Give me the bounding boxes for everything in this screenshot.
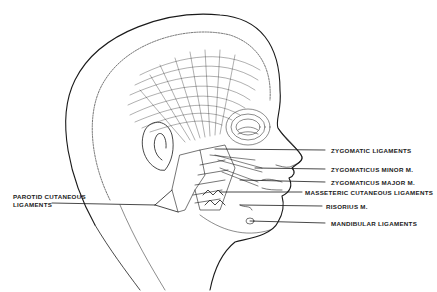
leader-zygomaticus-major [240, 180, 325, 182]
mouth-chin [200, 179, 282, 233]
head-illustration [0, 0, 437, 292]
label-zygomatic-ligaments: ZYGOMATIC LIGAMENTS [331, 147, 412, 154]
label-parotid-line2: LIGAMENTS [13, 201, 52, 208]
leader-parotid-cutaneous [52, 203, 155, 205]
leader-mandibular [250, 221, 325, 223]
label-zygomaticus-major: ZYGOMATICUS MAJOR M. [331, 179, 415, 186]
leader-zygomaticus-minor [255, 168, 325, 169]
parotid-masseter [172, 145, 235, 212]
leader-risorius [240, 205, 322, 206]
ear [142, 122, 173, 170]
label-mandibular-ligaments: MANDIBULAR LIGAMENTS [331, 220, 417, 227]
label-zygomaticus-minor: ZYGOMATICUS MINOR M. [331, 166, 413, 173]
leader-zygomatic-ligaments [215, 149, 325, 150]
scalp-inner-line [92, 32, 270, 200]
neck-back-line [95, 225, 140, 290]
temporalis-muscle-hatching [128, 50, 260, 142]
label-risorius: RISORIUS M. [326, 203, 368, 210]
nose [276, 128, 302, 167]
anatomy-diagram: ZYGOMATIC LIGAMENTS ZYGOMATICUS MINOR M.… [0, 0, 437, 292]
leader-lines [52, 149, 325, 223]
label-parotid-line1: PAROTID CUTANEOUS [13, 193, 86, 200]
head-outline [66, 14, 302, 290]
orbicularis-oculi [226, 109, 270, 145]
label-masseteric-cutaneous: MASSETERIC CUTANEOUS LIGAMENTS [305, 189, 433, 196]
